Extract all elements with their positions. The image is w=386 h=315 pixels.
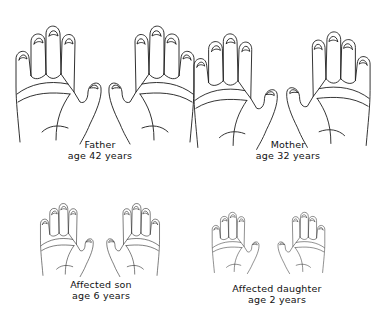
mother-label: Mother <box>246 139 330 150</box>
daughter-label: Affected daughter <box>222 283 332 294</box>
mother-age: age 32 years <box>246 150 330 161</box>
mother-left-hand-drawing <box>194 34 277 150</box>
father-right-hand-drawing <box>109 26 194 144</box>
daughter-right-hand-drawing <box>278 212 325 273</box>
mother-caption: Mother age 32 years <box>246 139 330 161</box>
daughter-left-hand-drawing <box>212 212 259 273</box>
father-left-hand-drawing <box>16 26 101 144</box>
son-age: age 6 years <box>56 290 146 301</box>
son-left-hand-drawing <box>40 204 93 277</box>
mother-right-hand-drawing <box>287 32 370 148</box>
son-right-hand-drawing <box>107 204 160 277</box>
father-label: Father <box>60 139 140 150</box>
daughter-age: age 2 years <box>222 294 332 305</box>
son-caption: Affected son age 6 years <box>56 279 146 301</box>
father-age: age 42 years <box>60 150 140 161</box>
father-caption: Father age 42 years <box>60 139 140 161</box>
daughter-caption: Affected daughter age 2 years <box>222 283 332 305</box>
son-label: Affected son <box>56 279 146 290</box>
